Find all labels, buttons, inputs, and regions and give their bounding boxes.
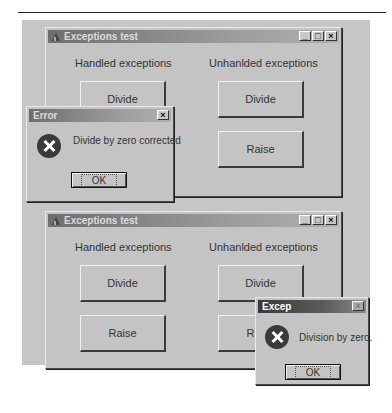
close-button[interactable]: × — [325, 31, 337, 41]
error-icon — [265, 325, 289, 349]
title-bar[interactable]: Exceptions test _ □ × — [48, 214, 339, 227]
error-message: Division by zero. — [299, 332, 372, 343]
handled-exceptions-label: Handled exceptions — [75, 241, 172, 253]
top-rule — [18, 12, 386, 13]
handled-divide-button[interactable]: Divide — [80, 265, 166, 302]
unhandled-raise-button[interactable]: Raise — [218, 131, 304, 168]
window-title: Exceptions test — [64, 215, 138, 226]
ok-label: OK — [81, 174, 117, 187]
title-bar[interactable]: Exceptions test _ □ × — [48, 30, 339, 43]
unhandled-divide-button[interactable]: Divide — [218, 81, 304, 118]
dialog-title-bar[interactable]: Error × — [29, 109, 171, 122]
handled-exceptions-label: Handled exceptions — [75, 57, 172, 69]
close-button[interactable]: × — [325, 215, 337, 225]
app-icon — [51, 31, 62, 42]
dialog-title: Error — [33, 110, 57, 121]
maximize-button[interactable]: □ — [312, 215, 324, 225]
ok-button[interactable]: OK — [285, 364, 341, 380]
dialog-title-bar[interactable]: Excep × — [258, 300, 366, 313]
unhandled-exceptions-label: Unhanlded exceptions — [209, 57, 318, 69]
error-dialog: Error × Divide by zero corrected OK — [26, 106, 174, 202]
error-icon — [37, 134, 61, 158]
app-icon — [51, 215, 62, 226]
handled-raise-button[interactable]: Raise — [80, 315, 166, 352]
minimize-button[interactable]: _ — [299, 31, 311, 41]
unhandled-exceptions-label: Unhanlded exceptions — [209, 241, 318, 253]
close-button[interactable]: × — [157, 110, 169, 120]
maximize-button[interactable]: □ — [312, 31, 324, 41]
exception-dialog: Excep × Division by zero. OK — [255, 297, 369, 385]
error-message: Divide by zero corrected — [73, 135, 181, 146]
dialog-title: Excep — [262, 301, 291, 312]
minimize-button[interactable]: _ — [299, 215, 311, 225]
window-title: Exceptions test — [64, 31, 138, 42]
ok-label: OK — [295, 366, 331, 379]
close-button[interactable]: × — [352, 301, 364, 311]
ok-button[interactable]: OK — [71, 172, 127, 188]
